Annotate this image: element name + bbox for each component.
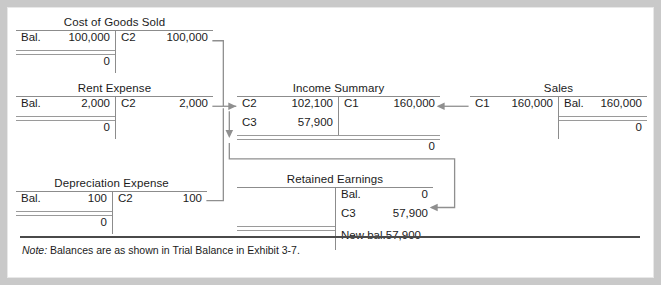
posting-ref: C2 [116, 31, 151, 43]
posting-ref: C3 [336, 207, 371, 219]
exhibit-frame: Cost of Goods Sold Bal. 100,000 0 [0, 0, 661, 285]
arrowhead-down-to-c3 [226, 130, 234, 138]
spacer-row [339, 116, 440, 135]
account-title-income-summary: Income Summary [237, 82, 440, 96]
account-title-cost-of-goods-sold: Cost of Goods Sold [16, 16, 213, 30]
balance-row: 0 [237, 140, 440, 158]
posting-row: Bal. 160,000 [559, 97, 647, 116]
account-title-sales: Sales [470, 82, 647, 96]
connector-cogs-to-trunk [212, 41, 223, 107]
note-body-text: Balances are as shown in Trial Balance i… [47, 244, 300, 256]
posting-ref: C1 [339, 97, 374, 109]
posting-ref: C2 [113, 192, 148, 204]
posting-ref: Bal. [559, 97, 594, 109]
posting-row: C1 160,000 [470, 97, 558, 116]
spacer-row [237, 207, 335, 226]
posting-amount: 160,000 [374, 97, 440, 109]
spacer-row [470, 116, 558, 135]
posting-amount: 2,000 [51, 97, 115, 109]
posting-ref: Bal. [16, 31, 51, 43]
balance-row: 0 [16, 121, 115, 139]
note-divider [20, 236, 640, 238]
account-title-depreciation-expense: Depreciation Expense [16, 177, 207, 191]
posting-row: C3 57,900 [237, 116, 338, 135]
balance-amount: 0 [559, 121, 647, 133]
posting-ref: C2 [237, 97, 272, 109]
posting-amount: 0 [371, 188, 433, 200]
posting-amount: 100,000 [151, 31, 213, 43]
balance-row: 0 [559, 121, 647, 139]
posting-amount: 100 [51, 192, 112, 204]
new-balance-label: New bal. [341, 229, 386, 241]
new-balance-amount: 57,900 [386, 229, 421, 241]
posting-row: C2 100 [113, 192, 207, 211]
taccount-sales: Sales C1 160,000 Bal. 160,000 [470, 82, 647, 139]
posting-amount: 57,900 [272, 116, 338, 128]
posting-ref: C3 [237, 116, 272, 128]
posting-amount: 160,000 [594, 97, 647, 109]
posting-amount: 57,900 [371, 207, 433, 219]
account-title-retained-earnings: Retained Earnings [237, 173, 433, 187]
posting-amount: 160,000 [505, 97, 558, 109]
posting-amount: 100,000 [51, 31, 115, 43]
posting-ref: C1 [470, 97, 505, 109]
taccount-income-summary: Income Summary C2 102,100 C3 57,900 [237, 82, 440, 158]
posting-row: Bal. 0 [336, 188, 433, 207]
posting-row: C1 160,000 [339, 97, 440, 116]
posting-row: C3 57,900 [336, 207, 433, 226]
new-balance-row: New bal. 57,900 [336, 229, 433, 247]
posting-row: Bal. 2,000 [16, 97, 115, 116]
posting-row: C2 2,000 [116, 97, 213, 116]
posting-ref: C2 [116, 97, 151, 109]
taccount-depreciation-expense: Depreciation Expense Bal. 100 0 [16, 177, 207, 234]
taccount-rent-expense: Rent Expense Bal. 2,000 0 [16, 82, 213, 139]
balance-amount: 0 [16, 121, 115, 133]
posting-ref: Bal. [16, 97, 51, 109]
balance-amount: 0 [16, 55, 115, 67]
posting-amount: 102,100 [272, 97, 338, 109]
account-title-rent-expense: Rent Expense [16, 82, 213, 96]
spacer-row [237, 188, 335, 207]
arrowhead-into-income-summary-debit [228, 102, 236, 110]
posting-ref: Bal. [16, 192, 51, 204]
balance-row: 0 [16, 216, 112, 234]
balance-row: 0 [16, 55, 115, 73]
posting-row: C2 100,000 [116, 31, 213, 50]
posting-row: Bal. 100,000 [16, 31, 115, 50]
posting-row: C2 102,100 [237, 97, 338, 116]
taccount-retained-earnings: Retained Earnings Bal. 0 [237, 173, 433, 250]
exhibit-panel: Cost of Goods Sold Bal. 100,000 0 [7, 7, 654, 278]
posting-row: Bal. 100 [16, 192, 112, 211]
posting-amount: 100 [148, 192, 207, 204]
balance-amount: 0 [16, 216, 112, 228]
note-lead-label: Note: [22, 244, 47, 256]
posting-amount: 2,000 [151, 97, 213, 109]
taccount-cost-of-goods-sold: Cost of Goods Sold Bal. 100,000 0 [16, 16, 213, 73]
posting-ref: Bal. [336, 188, 371, 200]
exhibit-note: Note: Balances are as shown in Trial Bal… [22, 244, 300, 256]
balance-amount: 0 [429, 140, 440, 152]
